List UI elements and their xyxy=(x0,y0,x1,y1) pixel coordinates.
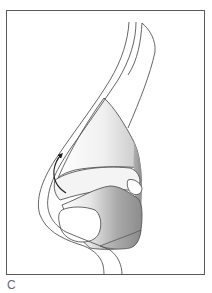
nasal-bone-tip xyxy=(128,23,142,75)
nasal-profile-illustration xyxy=(0,0,212,293)
anatomical-figure: C xyxy=(0,0,212,293)
nasal-bone xyxy=(128,23,155,128)
panel-label: C xyxy=(7,278,16,292)
nostril-rim xyxy=(59,207,101,242)
